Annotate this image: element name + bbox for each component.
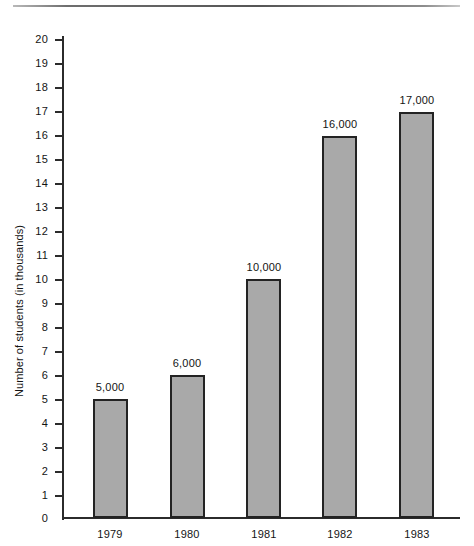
y-tick-3 <box>55 447 63 449</box>
y-tick-label-4: 4 <box>20 418 48 429</box>
y-tick-label-17: 17 <box>20 106 48 117</box>
y-tick-label-3: 3 <box>20 442 48 453</box>
x-tick-label-1981: 1981 <box>229 529 299 540</box>
y-tick-2 <box>55 471 63 473</box>
y-tick-label-5: 5 <box>20 394 48 405</box>
x-tick-label-1983: 1983 <box>382 529 452 540</box>
y-tick-4 <box>55 423 63 425</box>
y-tick-label-9: 9 <box>20 298 48 309</box>
y-tick-13 <box>55 207 63 209</box>
bar-1979[interactable] <box>93 399 128 518</box>
y-tick-14 <box>55 183 63 185</box>
y-tick-label-1: 1 <box>20 490 48 501</box>
bar-chart-figure: Number of students (in thousands) 20 19 … <box>0 0 474 546</box>
bar-value-1982: 16,000 <box>305 119 375 130</box>
y-tick-label-2: 2 <box>20 466 48 477</box>
y-tick-8 <box>55 327 63 329</box>
y-tick-5 <box>55 399 63 401</box>
y-tick-15 <box>55 159 63 161</box>
x-tick-label-1982: 1982 <box>305 529 375 540</box>
bar-1982[interactable] <box>322 136 357 518</box>
y-tick-18 <box>55 87 63 89</box>
y-tick-19 <box>55 63 63 65</box>
top-horizontal-rule <box>13 5 460 7</box>
y-tick-label-7: 7 <box>20 346 48 357</box>
x-tick-label-1979: 1979 <box>75 529 145 540</box>
y-tick-label-10: 10 <box>20 274 48 285</box>
y-tick-6 <box>55 375 63 377</box>
y-tick-label-18: 18 <box>20 82 48 93</box>
y-tick-label-13: 13 <box>20 202 48 213</box>
bar-value-1979: 5,000 <box>75 382 145 393</box>
y-tick-11 <box>55 255 63 257</box>
y-tick-20 <box>55 39 63 41</box>
bar-1980[interactable] <box>170 375 205 518</box>
x-tick-label-1980: 1980 <box>152 529 222 540</box>
bar-value-1980: 6,000 <box>152 358 222 369</box>
y-tick-17 <box>55 111 63 113</box>
y-tick-label-19: 19 <box>20 58 48 69</box>
y-tick-label-16: 16 <box>20 130 48 141</box>
bar-1981[interactable] <box>246 279 281 518</box>
y-tick-label-12: 12 <box>20 226 48 237</box>
bar-value-1981: 10,000 <box>229 262 299 273</box>
y-tick-16 <box>55 135 63 137</box>
y-tick-label-6: 6 <box>20 370 48 381</box>
bar-value-1983: 17,000 <box>382 95 452 106</box>
y-tick-7 <box>55 351 63 353</box>
y-tick-label-14: 14 <box>20 178 48 189</box>
y-tick-label-0: 0 <box>20 513 48 524</box>
y-tick-9 <box>55 303 63 305</box>
y-tick-1 <box>55 495 63 497</box>
y-tick-label-15: 15 <box>20 154 48 165</box>
y-tick-label-20: 20 <box>20 34 48 45</box>
y-tick-label-8: 8 <box>20 322 48 333</box>
bar-1983[interactable] <box>399 112 434 518</box>
y-axis-tick-labels: 20 19 18 17 16 15 14 13 12 11 10 9 8 7 6… <box>14 0 48 546</box>
y-tick-label-11: 11 <box>20 250 48 261</box>
y-tick-12 <box>55 231 63 233</box>
y-tick-10 <box>55 279 63 281</box>
